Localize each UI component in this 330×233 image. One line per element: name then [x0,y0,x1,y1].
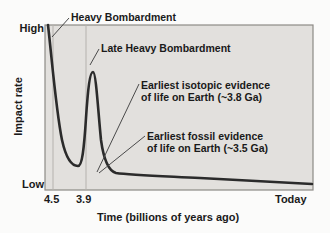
annotation-late-heavy-bombardment: Late Heavy Bombardment [101,42,231,54]
annotation-isotopic-line-1: Earliest isotopic evidence [141,79,270,91]
annotation-fossil-line-1: Earliest fossil evidence [147,130,263,142]
y-axis-high-label: High [6,22,44,35]
impact-rate-chart-figure: High Low Impact rate 4.5 3.9 Today Time … [0,0,330,233]
annotation-earliest-fossil-evidence: Earliest fossil evidence of life on Eart… [147,130,268,155]
x-axis-title: Time (billions of years ago) [97,211,239,224]
annotation-isotopic-line-2: of life on Earth (~3.8 Ga) [141,91,270,103]
y-axis-low-label: Low [6,178,44,191]
annotation-fossil-line-2: of life on Earth (~3.5 Ga) [147,142,268,154]
x-tick-label-today: Today [275,193,307,206]
annotation-earliest-isotopic-evidence: Earliest isotopic evidence of life on Ea… [141,79,270,104]
annotation-heavy-bombardment: Heavy Bombardment [71,11,176,23]
y-axis-title: Impact rate [12,66,25,146]
x-tick-label-4-5: 4.5 [44,193,59,206]
x-tick-label-3-9: 3.9 [76,193,91,206]
